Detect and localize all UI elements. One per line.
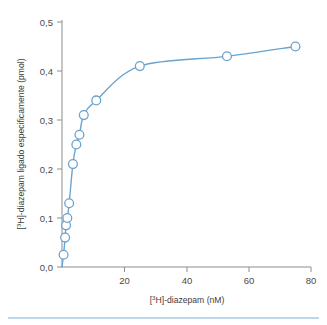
data-point [79,111,88,120]
data-point [59,250,68,259]
data-point [92,96,101,105]
y-axis-title: [3H]-diazepam ligado especificamente (pm… [15,58,26,229]
x-tick-label-0: 20 [119,275,130,286]
data-point [65,199,74,208]
data-point [75,130,84,139]
data-point [72,140,81,149]
data-point [223,52,232,61]
x-tick-label-2: 60 [244,275,255,286]
data-point [63,214,72,223]
y-tick-label-4: 0,4 [40,66,53,77]
chart-figure: 0,5 0,4 0,3 0,2 0,1 0,0 20 40 60 80 [3H]… [0,0,327,325]
y-tick-label-5: 0,5 [40,17,53,28]
x-axis-title: [3H]-diazepam (nM) [150,294,225,305]
saturation-binding-chart: 0,5 0,4 0,3 0,2 0,1 0,0 20 40 60 80 [3H]… [0,0,327,325]
y-tick-label-0: 0,0 [40,262,53,273]
data-point [68,160,77,169]
y-axis-title-suffix: H]-diazepam ligado especificamente (pmol… [16,58,26,223]
x-tick-label-3: 80 [306,275,317,286]
y-tick-label-3: 0,3 [40,115,53,126]
y-tick-label-1: 0,1 [40,213,53,224]
y-tick-label-2: 0,2 [40,164,53,175]
data-point [291,42,300,51]
x-axis-title-suffix: H]-diazepam (nM) [156,295,225,305]
data-point [135,62,144,71]
data-point [61,233,70,242]
x-tick-label-1: 40 [182,275,193,286]
